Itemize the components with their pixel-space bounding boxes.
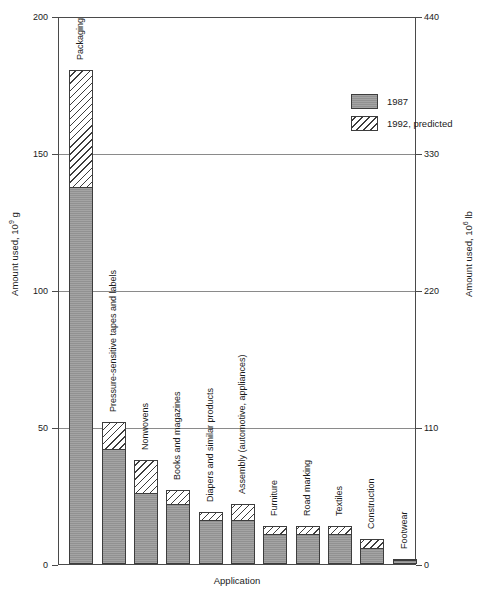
bar-category-label: Diapers and similar products	[205, 388, 215, 502]
y-axis-right-tick-label-330: 330	[424, 150, 439, 159]
bar-group[interactable]: Construction	[360, 539, 384, 564]
bar-group[interactable]: Diapers and similar products	[199, 512, 223, 564]
bar-group[interactable]: Pressure-sensitive tapes and labels	[102, 422, 126, 564]
bar-segment-1987[interactable]	[393, 560, 417, 564]
bar-segment-1987[interactable]	[231, 520, 255, 564]
y-axis-left-tick-label-200: 200	[33, 13, 48, 22]
bar-category-label: Packaging	[75, 18, 85, 60]
bar-group[interactable]: Road marking	[296, 526, 320, 564]
legend-swatch-1987-icon	[351, 94, 378, 109]
bar-category-label: Road marking	[302, 460, 312, 516]
x-axis-title: Application	[58, 575, 416, 586]
bar-group[interactable]: Textiles	[328, 526, 352, 564]
bar-category-label: Nonwovens	[140, 403, 150, 450]
bar-group[interactable]: Furniture	[263, 526, 287, 564]
y-axis-left-title-text: Amount used, 109 g	[9, 212, 20, 296]
y-axis-right-tick-label-0: 0	[424, 561, 429, 570]
y-axis-right-tick-220	[416, 291, 422, 292]
y-axis-right-tick-330	[416, 154, 422, 155]
legend-label-1987: 1987	[387, 96, 408, 107]
bar-group[interactable]: Packaging	[69, 70, 93, 564]
y-axis-left-tick-0	[52, 565, 58, 566]
y-axis-right-tick-110	[416, 428, 422, 429]
y-axis-left-tick-label-50: 50	[38, 424, 48, 433]
bar-group[interactable]: Assembly (automotive, appliances)	[231, 504, 255, 564]
bar-category-label: Furniture	[269, 480, 279, 516]
chart-legend: 1987 1992, predicted	[351, 94, 453, 138]
y-axis-left-tick-label-150: 150	[33, 150, 48, 159]
bar-category-label: Textiles	[334, 486, 344, 516]
bar-category-label: Construction	[366, 479, 376, 530]
bar-group[interactable]: Nonwovens	[134, 460, 158, 564]
y-axis-right-tick-440	[416, 17, 422, 18]
x-axis-title-text: Application	[214, 575, 260, 586]
bar-category-label: Books and magazines	[172, 392, 182, 481]
y-axis-right-tick-label-110: 110	[424, 424, 438, 433]
bar-segment-1987[interactable]	[199, 520, 223, 564]
bar-segment-1987[interactable]	[360, 548, 384, 564]
bar-group[interactable]: Footwear	[393, 559, 417, 564]
legend-item-1987: 1987	[351, 94, 453, 109]
y-axis-right-tick-0	[416, 565, 422, 566]
plot-area: PackagingPressure-sensitive tapes and la…	[58, 17, 416, 565]
bar-segment-1987[interactable]	[263, 534, 287, 564]
y-axis-left-title: Amount used, 109 g	[8, 164, 20, 344]
bar-category-label: Footwear	[399, 511, 409, 549]
bar-segment-1987[interactable]	[134, 493, 158, 564]
legend-swatch-1992-icon	[351, 116, 378, 131]
bar-segment-1987[interactable]	[166, 504, 190, 564]
legend-item-1992-predicted: 1992, predicted	[351, 116, 453, 131]
y-axis-right-tick-label-220: 220	[424, 287, 439, 296]
y-axis-right-tick-label-440: 440	[424, 13, 439, 22]
y-axis-left-tick-label-0: 0	[43, 561, 48, 570]
bar-segment-1987[interactable]	[328, 534, 352, 564]
bar-category-label: Assembly (automotive, appliances)	[237, 354, 247, 494]
chart-figure: Amount used, 109 g Amount used, 106 lb A…	[0, 0, 484, 597]
bar-segment-1987[interactable]	[102, 449, 126, 564]
y-axis-left-tick-label-100: 100	[33, 287, 48, 296]
bar-group[interactable]: Books and magazines	[166, 490, 190, 564]
y-axis-right-title: Amount used, 106 lb	[462, 164, 474, 344]
y-axis-right-title-text: Amount used, 106 lb	[463, 211, 474, 297]
bar-segment-1987[interactable]	[296, 534, 320, 564]
bar-category-label: Pressure-sensitive tapes and labels	[108, 270, 118, 412]
bar-segment-1987[interactable]	[69, 187, 93, 564]
legend-label-1992-predicted: 1992, predicted	[387, 118, 453, 129]
